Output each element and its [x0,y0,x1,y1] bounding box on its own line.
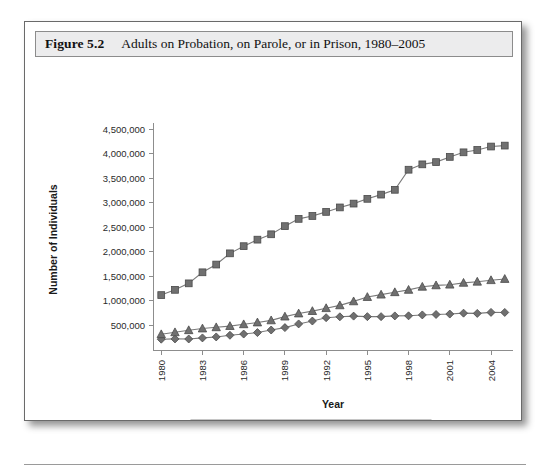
data-point-marker [199,269,206,276]
data-point-marker [501,142,508,149]
data-point-marker [213,261,220,268]
data-point-marker [295,320,303,328]
data-point-marker [240,243,247,250]
y-tick-label: 500,000 [111,320,145,331]
data-point-marker [433,159,440,166]
figure-caption: Adults on Probation, on Parole, or in Pr… [121,36,425,52]
data-point-marker [350,200,357,207]
data-point-marker [254,236,261,243]
figure-number: Figure 5.2 [45,36,104,52]
data-point-marker [501,308,509,316]
y-tick-label: 2,000,000 [103,246,145,257]
series-parole [157,308,509,343]
chart-plot-area: 500,0001,000,0001,500,0002,000,0002,500,… [25,57,523,420]
data-point-marker [295,215,302,222]
y-tick-label: 3,000,000 [103,197,145,208]
data-point-marker [418,311,426,319]
series-probation [158,142,508,298]
data-point-marker [474,147,481,154]
data-point-marker [253,329,261,337]
data-point-marker [268,231,275,238]
data-point-marker [378,191,385,198]
y-tick-label: 1,000,000 [103,295,145,306]
data-point-marker [460,309,468,317]
chart-series-group [157,142,509,343]
line-chart: 500,0001,000,0001,500,0002,000,0002,500,… [25,57,523,420]
data-point-marker [446,310,454,318]
data-point-marker [460,149,467,156]
x-axis-title: Year [322,398,344,410]
data-point-marker [267,326,275,334]
data-point-marker [336,204,343,211]
data-point-marker [391,186,398,193]
data-point-marker [240,330,248,338]
data-point-marker [364,195,371,202]
x-tick-label: 2001 [444,360,455,381]
data-point-marker [281,324,289,332]
data-point-marker [473,309,481,317]
data-point-marker [172,286,179,293]
y-tick-label: 4,000,000 [103,148,145,159]
data-point-marker [391,312,399,320]
x-tick-label: 2004 [486,360,497,381]
data-point-marker [487,308,495,316]
data-point-marker [185,335,193,343]
data-point-marker [227,250,234,257]
y-tick-label: 1,500,000 [103,271,145,282]
x-tick-label: 1992 [321,360,332,381]
data-point-marker [405,312,413,320]
y-tick-label: 3,500,000 [103,173,145,184]
data-point-marker [377,313,385,321]
data-point-marker [282,223,289,230]
figure-container: Figure 5.2 Adults on Probation, on Parol… [24,21,522,421]
x-tick-label: 1986 [238,360,249,381]
data-point-marker [158,292,165,299]
data-point-marker [488,143,495,150]
y-tick-label: 2,500,000 [103,222,145,233]
figure-page: Figure 5.2 Adults on Probation, on Parol… [0,0,550,473]
data-point-marker [336,313,344,321]
data-point-marker [350,312,358,320]
x-tick-label: 1998 [403,360,414,381]
data-point-marker [212,333,220,341]
x-axis: 198019831986198919921995199820012004 [153,350,513,381]
y-tick-label: 4,500,000 [103,124,145,135]
data-point-marker [405,166,412,173]
data-point-marker [432,310,440,318]
data-point-marker [323,208,330,215]
data-point-marker [309,213,316,220]
data-point-marker [322,314,330,322]
data-point-marker [198,334,206,342]
x-tick-label: 1989 [279,360,290,381]
data-point-marker [501,275,509,283]
data-point-marker [419,161,426,168]
x-tick-label: 1995 [362,360,373,381]
x-tick-label: 1983 [197,360,208,381]
data-point-marker [446,153,453,160]
page-divider-rule [24,464,526,465]
y-axis: 500,0001,000,0001,500,0002,000,0002,500,… [103,123,153,350]
data-point-marker [308,317,316,325]
x-tick-label: 1980 [156,360,167,381]
data-point-marker [363,313,371,321]
data-point-marker [226,331,234,339]
figure-title-band: Figure 5.2 Adults on Probation, on Parol… [35,31,513,57]
y-axis-title: Number of Individuals [47,184,59,294]
series-prison [157,275,509,338]
data-point-marker [185,280,192,287]
